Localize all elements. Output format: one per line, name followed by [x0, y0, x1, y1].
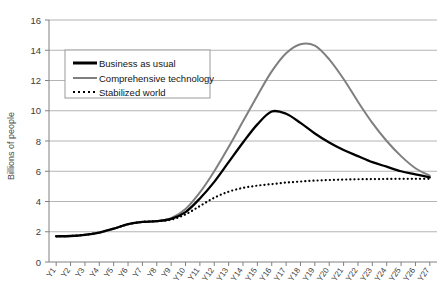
y-tick-label: 0: [36, 257, 41, 268]
y-tick-label: 12: [30, 75, 41, 86]
x-tick-label: Y15: [243, 266, 259, 283]
x-tick-label: Y23: [358, 266, 374, 283]
x-tick-label: Y22: [344, 266, 360, 283]
y-tick-label: 6: [36, 166, 41, 177]
series-line-business-as-usual: [56, 111, 430, 236]
x-tick-label: Y3: [74, 266, 87, 280]
population-projection-line-chart: 0246810121416 Y1Y2Y3Y4Y5Y6Y7Y8Y9Y10Y11Y1…: [0, 0, 443, 307]
x-tick-label: Y21: [330, 266, 346, 283]
x-tick-label: Y7: [131, 266, 144, 280]
y-tick-label: 8: [36, 136, 41, 147]
y-tick-label: 16: [30, 15, 41, 26]
chart-container: 0246810121416 Y1Y2Y3Y4Y5Y6Y7Y8Y9Y10Y11Y1…: [0, 0, 443, 307]
x-tick-label: Y4: [88, 266, 101, 280]
x-tick-label: Y10: [172, 266, 188, 283]
x-tick-label: Y16: [258, 266, 274, 283]
x-tick-label: Y2: [59, 266, 72, 280]
y-tick-label: 4: [36, 196, 41, 207]
x-tick-label: Y5: [102, 266, 115, 280]
chart-legend: Business as usual Comprehensive technolo…: [65, 50, 214, 98]
x-tick-label: Y25: [387, 266, 403, 283]
y-axis-title: Billions of people: [6, 112, 16, 180]
legend-label-business-as-usual: Business as usual: [99, 58, 176, 69]
x-tick-label: Y14: [229, 266, 245, 283]
y-tick-label: 2: [36, 226, 41, 237]
x-tick-label: Y26: [402, 266, 418, 283]
x-tick-label: Y6: [117, 266, 130, 280]
x-tick-label: Y13: [215, 266, 231, 283]
y-tick-label: 14: [30, 45, 41, 56]
y-tick-label: 10: [30, 105, 41, 116]
x-tick-label: Y19: [301, 266, 317, 283]
x-tick-label: Y18: [287, 266, 303, 283]
x-tick-label: Y17: [272, 266, 288, 283]
legend-label-stabilized-world: Stabilized world: [99, 87, 166, 98]
x-tick-label: Y1: [45, 266, 58, 280]
x-tick-label: Y8: [145, 266, 158, 280]
x-tick-label: Y27: [416, 266, 432, 283]
y-axis-ticks-group: 0246810121416: [30, 15, 49, 268]
x-tick-label: Y20: [315, 266, 331, 283]
legend-label-comprehensive-technology: Comprehensive technology: [99, 73, 214, 84]
x-tick-label: Y11: [186, 266, 202, 283]
x-axis-ticks-group: Y1Y2Y3Y4Y5Y6Y7Y8Y9Y10Y11Y12Y13Y14Y15Y16Y…: [45, 262, 432, 283]
series-line-stabilized-world: [56, 179, 430, 236]
x-tick-label: Y12: [200, 266, 216, 283]
x-tick-label: Y24: [373, 266, 389, 283]
